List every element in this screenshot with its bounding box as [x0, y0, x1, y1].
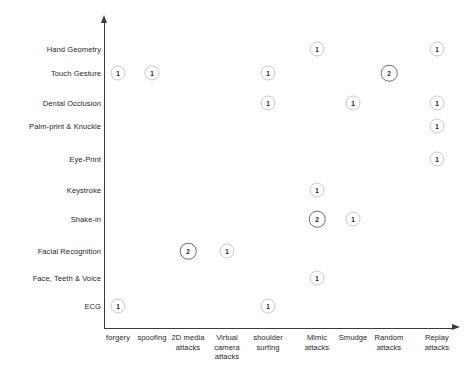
- y-axis-label-touch-gesture: Touch Gesture: [0, 69, 101, 78]
- y-axis-label-dental-occlusion: Dental Occlusion: [0, 99, 101, 108]
- data-point-hand-geometry-mimic-attacks: 1: [310, 42, 325, 57]
- y-axis-line: [104, 22, 105, 328]
- data-point-dental-occlusion-replay-attacks: 1: [430, 96, 445, 111]
- data-point-dental-occlusion-smudge: 1: [346, 96, 361, 111]
- data-point-dental-occlusion-shoulder-surfing: 1: [261, 96, 276, 111]
- y-axis-label-keystroke: Keystroke: [0, 186, 101, 195]
- data-point-facial-recognition-virtual-camera-attacks: 1: [220, 244, 235, 259]
- y-axis-label-eye-print: Eye-Print: [0, 155, 101, 164]
- y-axis-label-ecg: ECG: [0, 302, 101, 311]
- data-point-touch-gesture-forgery: 1: [111, 66, 126, 81]
- x-axis-label-random-attacks: Random attacks: [366, 333, 412, 352]
- y-axis-arrow-icon: [101, 15, 107, 23]
- data-point-palm-print-knuckle-replay-attacks: 1: [430, 119, 445, 134]
- data-point-hand-geometry-replay-attacks: 1: [430, 42, 445, 57]
- data-point-keystroke-mimic-attacks: 1: [310, 183, 325, 198]
- y-axis-label-hand-geometry: Hand Geometry: [0, 45, 101, 54]
- data-point-facial-recognition-2d-media-attacks: 2: [180, 243, 197, 260]
- y-axis-label-face-teeth-voice: Face, Teeth & Voice: [0, 274, 101, 283]
- scatter-chart: Hand GeometryTouch GestureDental Occlusi…: [0, 0, 471, 369]
- data-point-touch-gesture-random-attacks: 2: [381, 65, 398, 82]
- data-point-ecg-shoulder-surfing: 1: [261, 299, 276, 314]
- y-axis-label-palm-print-knuckle: Palm-print & Knuckle: [0, 122, 101, 131]
- x-axis-label-replay-attacks: Replay attacks: [414, 333, 460, 352]
- data-point-touch-gesture-shoulder-surfing: 1: [261, 66, 276, 81]
- data-point-shake-in-mimic-attacks: 2: [309, 211, 326, 228]
- data-point-ecg-forgery: 1: [111, 299, 126, 314]
- x-axis-arrow-icon: [452, 324, 460, 330]
- y-axis-label-facial-recognition: Facial Recognition: [0, 247, 101, 256]
- data-point-shake-in-smudge: 1: [346, 212, 361, 227]
- data-point-eye-print-replay-attacks: 1: [430, 152, 445, 167]
- y-axis-label-shake-in: Shake-in: [0, 215, 101, 224]
- x-axis-label-shoulder-surfing: shoulder surfing: [245, 333, 291, 352]
- data-point-touch-gesture-spoofing: 1: [145, 66, 160, 81]
- data-point-face-teeth-voice-mimic-attacks: 1: [310, 271, 325, 286]
- x-axis-label-virtual-camera-attacks: Virtual camera attacks: [204, 333, 250, 362]
- x-axis-line: [104, 328, 454, 329]
